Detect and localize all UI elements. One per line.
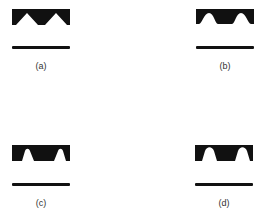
panel-label: (b) [196, 61, 254, 71]
rounded-notch-profile-icon [196, 9, 254, 27]
base-bar [196, 46, 254, 49]
panel-label: (a) [12, 61, 70, 71]
tall-rounded-notch-profile-icon [195, 145, 253, 163]
base-bar [12, 46, 70, 49]
trapezoidal-notch-profile-icon [12, 145, 70, 163]
triangular-notch-profile-icon [12, 9, 70, 27]
base-bar [12, 183, 70, 186]
panel-label: (d) [195, 198, 253, 208]
panel-label: (c) [12, 198, 70, 208]
base-bar [195, 183, 253, 186]
